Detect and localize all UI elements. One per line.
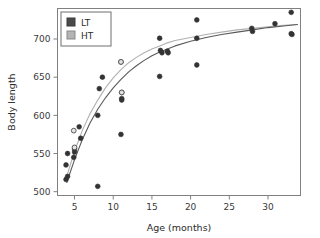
data-point-lt <box>166 50 171 55</box>
data-point-lt <box>119 132 124 137</box>
data-point-lt <box>194 18 199 23</box>
data-point-lt <box>100 75 105 80</box>
data-point-lt <box>194 63 199 68</box>
x-tick-label: 30 <box>262 202 274 212</box>
x-tick-label: 20 <box>185 202 197 212</box>
data-point-ht <box>119 90 124 95</box>
x-tick-label: 25 <box>224 202 235 212</box>
y-axis-title: Body length <box>6 73 17 130</box>
data-point-lt <box>78 136 83 141</box>
data-point-lt <box>273 21 278 26</box>
data-point-lt <box>160 50 165 55</box>
data-point-lt <box>65 151 70 156</box>
x-axis-title: Age (months) <box>147 222 212 233</box>
y-tick-label: 600 <box>33 111 50 121</box>
legend-label-ht: HT <box>81 31 94 41</box>
y-tick-label: 500 <box>33 187 50 197</box>
data-point-lt <box>250 29 255 34</box>
data-point-lt <box>157 36 162 41</box>
x-tick-label: 10 <box>107 202 119 212</box>
data-point-lt <box>72 150 77 155</box>
data-point-lt <box>289 10 294 15</box>
data-point-lt <box>119 98 124 103</box>
y-tick-label: 650 <box>33 72 50 82</box>
data-point-ht <box>71 128 76 133</box>
data-point-lt <box>64 163 69 168</box>
scatter-plot: 500550600650700 51015202530 Age (months)… <box>0 0 320 238</box>
data-point-lt <box>71 155 76 160</box>
data-point-lt <box>95 113 100 118</box>
data-point-lt <box>65 174 70 179</box>
y-axis-ticks: 500550600650700 <box>33 34 57 197</box>
data-point-ht <box>119 60 124 65</box>
data-point-lt <box>97 86 102 91</box>
data-point-lt <box>290 32 295 37</box>
chart-figure: 500550600650700 51015202530 Age (months)… <box>0 0 320 238</box>
y-tick-label: 550 <box>33 149 50 159</box>
data-point-lt <box>77 124 82 129</box>
legend-swatch-ht <box>67 31 75 39</box>
data-point-lt <box>194 36 199 41</box>
data-point-lt <box>157 74 162 79</box>
x-tick-label: 15 <box>146 202 157 212</box>
legend-label-lt: LT <box>81 18 91 28</box>
legend-swatch-lt <box>67 18 75 26</box>
x-axis-ticks: 51015202530 <box>72 196 274 212</box>
legend: LT HT <box>61 12 111 46</box>
data-point-ht <box>72 145 77 150</box>
x-tick-label: 5 <box>72 202 78 212</box>
data-point-lt <box>95 184 100 189</box>
y-tick-label: 700 <box>33 34 50 44</box>
